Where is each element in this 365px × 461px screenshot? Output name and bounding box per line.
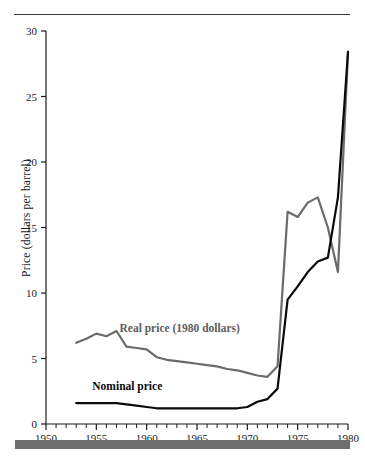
series-line	[76, 52, 348, 408]
oil-price-line-chart: 051015202530 195019551960196519701975198…	[0, 0, 365, 461]
y-tick-label: 25	[26, 91, 38, 103]
y-tick-label-group: 051015202530	[26, 25, 38, 430]
y-tick-label: 5	[32, 353, 38, 365]
y-axis-group: 051015202530	[26, 25, 46, 430]
x-major-tick-group	[46, 424, 348, 430]
nominal-price-series-label: Nominal price	[92, 380, 162, 393]
y-tick-label: 15	[26, 222, 38, 234]
y-tick-label: 30	[26, 25, 38, 37]
series-group	[76, 52, 348, 408]
bottom-accent-bar	[15, 440, 350, 449]
y-tick-label: 20	[26, 156, 38, 168]
real-price-series-label: Real price (1980 dollars)	[119, 322, 240, 335]
y-tick-label: 0	[32, 418, 38, 430]
y-tick-label: 10	[26, 287, 38, 299]
y-tick-group	[41, 31, 46, 424]
figure-container: Price (dollars per barrel) 051015202530 …	[0, 0, 365, 461]
